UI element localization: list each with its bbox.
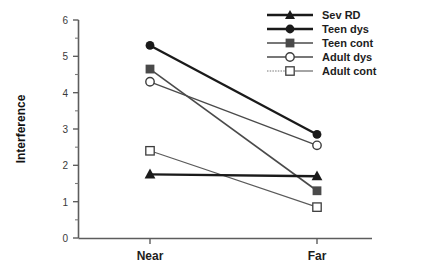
x-axis-ticks [150, 239, 317, 245]
legend-item-sev-rd[interactable]: Sev RD [267, 9, 361, 21]
series-line-teen-cont [150, 69, 317, 191]
data-point-teen-cont-far [313, 186, 322, 195]
legend-label-adult-cont: Adult cont [322, 65, 377, 77]
y-tick-label-5: 5 [62, 51, 68, 62]
y-tick-label-0: 0 [62, 233, 68, 244]
data-point-adult-cont-near [146, 147, 154, 155]
data-point-teen-dys-far [313, 130, 322, 139]
y-tick-label-4: 4 [62, 88, 68, 99]
legend-label-teen-dys: Teen dys [322, 23, 369, 35]
y-tick-label-2: 2 [62, 160, 68, 171]
series-line-adult-cont [150, 151, 317, 207]
y-axis-major-ticks [73, 20, 79, 238]
data-point-adult-dys-far [313, 141, 321, 149]
legend-item-adult-dys[interactable]: Adult dys [267, 51, 372, 63]
legend-marker-open-square-icon [286, 67, 294, 75]
x-category-label-far: Far [308, 249, 327, 263]
series-line-adult-dys [150, 82, 317, 146]
y-axis-title: Interference [14, 94, 28, 163]
legend-item-adult-cont[interactable]: Adult cont [267, 65, 377, 77]
legend-marker-open-circle-icon [286, 53, 294, 61]
legend-label-teen-cont: Teen cont [322, 37, 373, 49]
chart-page: 6 5 4 3 2 1 0 Interference Near Far [0, 0, 441, 271]
legend-item-teen-dys[interactable]: Teen dys [267, 23, 369, 35]
data-point-teen-dys-near [146, 41, 155, 50]
interference-line-chart: 6 5 4 3 2 1 0 Interference Near Far [0, 0, 441, 271]
data-point-teen-cont-near [146, 65, 155, 74]
chart-legend: Sev RD Teen dys Teen cont Adult dys [267, 9, 377, 77]
y-tick-label-1: 1 [62, 197, 68, 208]
data-point-adult-dys-near [146, 78, 154, 86]
legend-item-teen-cont[interactable]: Teen cont [267, 37, 373, 49]
legend-label-sev-rd: Sev RD [322, 9, 361, 21]
legend-marker-filled-square-icon [286, 39, 295, 48]
y-tick-label-6: 6 [62, 15, 68, 26]
x-category-label-near: Near [137, 249, 164, 263]
series-line-sev-rd [150, 174, 317, 176]
y-tick-label-3: 3 [62, 124, 68, 135]
data-point-adult-cont-far [313, 203, 321, 211]
legend-marker-filled-circle-icon [286, 25, 295, 34]
legend-label-adult-dys: Adult dys [322, 51, 372, 63]
